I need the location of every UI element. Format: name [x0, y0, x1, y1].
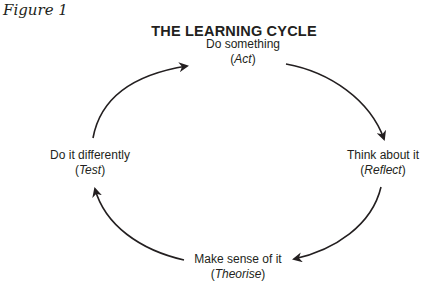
node-test-stage: (Test) — [20, 163, 160, 178]
node-theorise-stage: (Theorise) — [168, 267, 308, 282]
node-act: Do something (Act) — [173, 37, 313, 67]
node-theorise-label: Make sense of it — [194, 252, 281, 266]
node-test: Do it differently (Test) — [20, 148, 160, 178]
node-reflect-stage: (Reflect) — [313, 163, 444, 178]
arrow-test-to-act — [93, 66, 187, 138]
arrow-act-to-reflect — [286, 64, 384, 139]
node-act-stage: (Act) — [173, 52, 313, 67]
node-reflect-label: Think about it — [347, 148, 419, 162]
node-test-label: Do it differently — [50, 148, 130, 162]
arrow-reflect-to-theorise — [294, 187, 381, 259]
node-act-label: Do something — [206, 37, 280, 51]
node-reflect: Think about it (Reflect) — [313, 148, 444, 178]
node-theorise: Make sense of it (Theorise) — [168, 252, 308, 282]
arrow-theorise-to-test — [95, 189, 184, 260]
